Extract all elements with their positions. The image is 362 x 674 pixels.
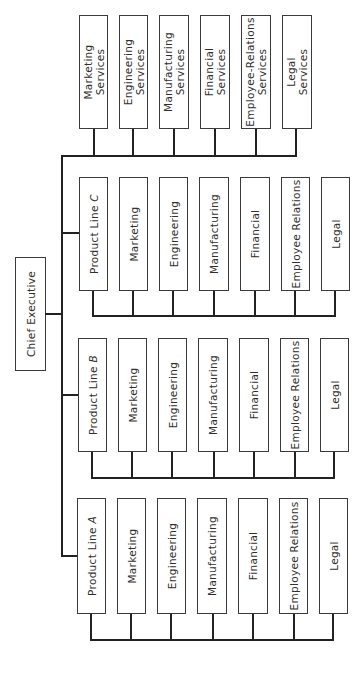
dept-stem	[91, 452, 93, 478]
connector-chief-to-spine	[45, 313, 62, 315]
service-box-manufacturing: ManufacturingServices	[159, 15, 189, 129]
service-stem	[173, 129, 175, 156]
dept-stem	[131, 452, 133, 478]
product-line-label: Product Line B	[87, 355, 99, 435]
service-label: Employee-RelationsServices	[244, 17, 268, 126]
dept-label: Financial	[248, 371, 260, 420]
dept-label: Manufacturing	[206, 516, 218, 596]
dept-label: Marketing	[128, 206, 140, 261]
service-label: FinancialServices	[203, 48, 227, 97]
service-label: LegalServices	[285, 49, 309, 96]
product-line-b-box: Product Line B	[78, 338, 107, 452]
service-stem	[132, 129, 134, 156]
service-stem	[214, 129, 216, 156]
dept-stem	[213, 452, 215, 478]
service-stem	[295, 129, 297, 156]
dept-label: Marketing	[127, 367, 139, 422]
service-stem	[255, 129, 257, 156]
dept-label: Employee Relations	[289, 341, 301, 450]
dept-box-engineering: Engineering	[159, 177, 188, 291]
dept-label: Employee Relations	[290, 180, 302, 289]
connector-spine-to-product-line-a	[61, 555, 78, 557]
service-label: ManufacturingServices	[162, 32, 186, 112]
dept-stem	[293, 614, 295, 640]
dept-box-legal: Legal	[319, 498, 348, 614]
dept-stem	[294, 452, 296, 478]
dept-box-legal: Legal	[321, 177, 350, 291]
dept-stem	[212, 614, 214, 640]
dept-box-financial: Financial	[239, 338, 269, 452]
dept-label: Marketing	[126, 528, 138, 583]
dept-box-engineering: Engineering	[157, 498, 186, 614]
dept-stem	[294, 291, 296, 316]
product-line-label: Product Line C	[88, 194, 100, 274]
dept-box-employee-relations: Employee Relations	[281, 177, 310, 291]
dept-stem	[254, 291, 256, 316]
dept-stem	[92, 291, 94, 316]
dept-stem	[213, 291, 215, 316]
dept-box-marketing: Marketing	[119, 177, 148, 291]
dept-stem	[132, 291, 134, 316]
service-label: EngineeringServices	[122, 39, 146, 105]
service-box-financial: FinancialServices	[200, 15, 230, 129]
dept-label: Engineering	[166, 523, 178, 589]
dept-stem	[334, 291, 336, 316]
dept-label: Financial	[249, 210, 261, 259]
dept-stem	[130, 614, 132, 640]
dept-label: Financial	[247, 532, 259, 581]
product-line-c-box: Product Line C	[79, 177, 108, 291]
dept-box-marketing: Marketing	[117, 498, 146, 614]
dept-box-employee-relations: Employee Relations	[279, 498, 308, 614]
connector-spine-to-product-line-b	[61, 394, 79, 396]
service-box-employee-relations: Employee-RelationsServices	[241, 15, 271, 129]
dept-label: Employee Relations	[288, 502, 300, 611]
dept-stem	[253, 452, 255, 478]
dept-stem	[90, 614, 92, 640]
dept-box-manufacturing: Manufacturing	[197, 498, 227, 614]
dept-stem	[170, 614, 172, 640]
dept-stem	[333, 452, 335, 478]
chief-executive-box: Chief Executive	[15, 257, 46, 371]
chief-executive-label: Chief Executive	[25, 271, 37, 357]
dept-box-manufacturing: Manufacturing	[198, 338, 228, 452]
dept-box-legal: Legal	[320, 338, 349, 452]
dept-box-manufacturing: Manufacturing	[199, 177, 229, 291]
dept-label: Engineering	[167, 362, 179, 428]
dept-stem	[332, 614, 334, 640]
service-box-engineering: EngineeringServices	[119, 15, 148, 129]
dept-label: Legal	[328, 541, 340, 571]
dept-label: Engineering	[168, 201, 180, 267]
dept-label: Manufacturing	[207, 355, 219, 435]
product-line-label: Product Line A	[86, 516, 98, 596]
dept-stem	[252, 614, 254, 640]
dept-box-engineering: Engineering	[158, 338, 187, 452]
product-line-a-box: Product Line A	[77, 498, 106, 614]
dept-label: Legal	[330, 219, 342, 249]
dept-stem	[171, 452, 173, 478]
service-label: MarketingServices	[82, 44, 106, 99]
dept-box-financial: Financial	[238, 498, 268, 614]
dept-box-financial: Financial	[240, 177, 270, 291]
dept-box-employee-relations: Employee Relations	[280, 338, 309, 452]
dept-label: Legal	[329, 380, 341, 410]
service-stem	[93, 129, 95, 156]
connector-spine-to-product-line-c	[61, 232, 79, 234]
dept-stem	[172, 291, 174, 316]
service-box-legal: LegalServices	[282, 15, 312, 129]
dept-label: Manufacturing	[208, 194, 220, 274]
services-bus	[61, 155, 297, 157]
service-box-marketing: MarketingServices	[79, 15, 108, 129]
main-spine	[61, 155, 63, 556]
dept-box-marketing: Marketing	[118, 338, 147, 452]
